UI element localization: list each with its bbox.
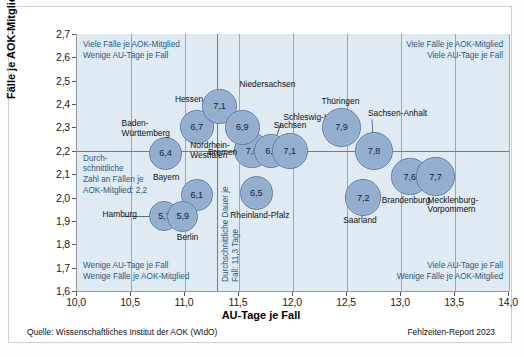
bubble-sachsen-anhalt[interactable]: 7,8 bbox=[355, 132, 394, 171]
x-tick-label: 10,0 bbox=[51, 296, 101, 308]
plot-area: Viele Fälle je AOK-MitgliedWenige AU-Tag… bbox=[76, 34, 509, 292]
y-tick-mark bbox=[72, 291, 76, 292]
x-tick-label: 10,5 bbox=[105, 296, 155, 308]
state-label-saarland: Saarland bbox=[343, 216, 377, 226]
bubble-value-label: 6,5 bbox=[250, 188, 263, 198]
y-tick-mark bbox=[72, 104, 76, 105]
state-label-baden-w-rttemberg: Baden- Württemberg bbox=[122, 119, 170, 138]
state-label-berlin: Berlin bbox=[177, 233, 198, 243]
chart-frame: Fälle je AOK-Mitglied Viele Fälle je AOK… bbox=[8, 6, 512, 343]
bubble-mecklenburg-vorpommern[interactable]: 7,7 bbox=[416, 157, 454, 195]
y-tick-mark bbox=[72, 151, 76, 152]
bubble-value-label: 6,9 bbox=[236, 122, 249, 132]
y-tick-label: 1,8 bbox=[36, 238, 70, 250]
x-tick-label: 11,5 bbox=[213, 296, 263, 308]
y-tick-label: 2,3 bbox=[36, 121, 70, 133]
y-tick-mark bbox=[72, 244, 76, 245]
x-gridline bbox=[347, 34, 348, 291]
y-tick-mark bbox=[72, 268, 76, 269]
y-tick-mark bbox=[72, 221, 76, 222]
y-tick-label: 2,5 bbox=[36, 75, 70, 87]
y-tick-label: 1,7 bbox=[36, 262, 70, 274]
state-label-th-ringen: Thüringen bbox=[322, 97, 360, 107]
y-tick-mark bbox=[72, 174, 76, 175]
bubble-value-label: 7,7 bbox=[429, 172, 442, 182]
y-tick-label: 2,6 bbox=[36, 51, 70, 63]
bubble-saarland[interactable]: 7,2 bbox=[345, 179, 381, 215]
x-tick-label: 13,5 bbox=[429, 296, 479, 308]
source-note: Quelle: Wissenschaftliches Institut der … bbox=[27, 327, 217, 337]
state-label-sachsen-anhalt: Sachsen-Anhalt bbox=[368, 109, 427, 119]
avg-cases-label: Durch-schnittlicheZahl an Fällen jeAOK-M… bbox=[83, 154, 147, 197]
y-tick-label: 1,9 bbox=[36, 215, 70, 227]
x-tick-label: 14,0 bbox=[483, 296, 524, 308]
y-tick-label: 2,2 bbox=[36, 145, 70, 157]
bubble-value-label: 7,9 bbox=[335, 122, 348, 132]
bubble-value-label: 7,1 bbox=[283, 146, 296, 156]
state-label-mecklenburg-vorpommern: Mecklenburg- Vorpommern bbox=[428, 196, 479, 215]
y-axis-title: Fälle je AOK-Mitglied bbox=[5, 0, 17, 99]
y-tick-label: 2,1 bbox=[36, 168, 70, 180]
quadrant-note-bottom-left: Wenige AU-Tage je FallWenige Fälle je AO… bbox=[83, 260, 189, 282]
state-label-bayern: Bayern bbox=[153, 173, 180, 183]
bubble-berlin[interactable]: 5,9 bbox=[167, 201, 198, 232]
x-tick-label: 12,5 bbox=[321, 296, 371, 308]
y-tick-label: 2,7 bbox=[36, 28, 70, 40]
quadrant-note-top-right: Viele Fälle je AOK-MitgliedViele AU-Tage… bbox=[406, 39, 503, 61]
bubble-sachsen[interactable]: 7,1 bbox=[272, 133, 308, 169]
bubble-value-label: 6,7 bbox=[191, 122, 204, 132]
x-gridline bbox=[455, 34, 456, 291]
y-tick-label: 2,4 bbox=[36, 98, 70, 110]
state-label-sachsen: Sachsen bbox=[274, 121, 307, 131]
bubble-th-ringen[interactable]: 7,9 bbox=[322, 108, 361, 147]
x-gridline bbox=[185, 34, 186, 291]
state-label-rheinland-pfalz: Rheinland-Pfalz bbox=[230, 211, 289, 221]
quadrant-note-top-left: Viele Fälle je AOK-MitgliedWenige AU-Tag… bbox=[83, 39, 180, 61]
bubble-value-label: 7,2 bbox=[357, 193, 370, 203]
x-tick-label: 11,0 bbox=[159, 296, 209, 308]
bubble-value-label: 6,4 bbox=[159, 148, 172, 158]
state-label-hamburg: Hamburg bbox=[102, 210, 136, 220]
avg-duration-reference-line bbox=[217, 34, 218, 291]
state-label-hessen: Hessen bbox=[175, 95, 203, 105]
state-label-niedersachsen: Niedersachsen bbox=[240, 80, 296, 90]
y-tick-label: 2,0 bbox=[36, 192, 70, 204]
bubble-value-label: 7,6 bbox=[403, 172, 416, 182]
quadrant-note-bottom-right: Viele AU-Tage je FallWenige Fälle je AOK… bbox=[397, 260, 503, 282]
avg-duration-label: Durchschnittliche Dauer jeFall: 11,3 Tag… bbox=[221, 186, 242, 282]
chart-figure: Fälle je AOK-Mitglied Viele Fälle je AOK… bbox=[0, 0, 524, 357]
bubble-value-label: 6,1 bbox=[191, 190, 204, 200]
bubble-value-label: 7,8 bbox=[368, 146, 381, 156]
bubble-baden-w-rttemberg[interactable]: 6,4 bbox=[149, 137, 182, 170]
x-gridline bbox=[509, 34, 510, 291]
x-tick-label: 12,0 bbox=[267, 296, 317, 308]
y-tick-mark bbox=[72, 81, 76, 82]
y-tick-mark bbox=[72, 34, 76, 35]
bubble-value-label: 7,1 bbox=[213, 101, 226, 111]
report-note: Fehlzeiten-Report 2023 bbox=[407, 327, 495, 337]
bubble-value-label: 5,9 bbox=[177, 211, 190, 221]
x-axis-title: AU-Tage je Fall bbox=[9, 309, 513, 321]
y-tick-mark bbox=[72, 198, 76, 199]
bubble-rheinland-pfalz[interactable]: 6,5 bbox=[240, 176, 273, 209]
y-tick-label: 1,6 bbox=[36, 285, 70, 297]
state-label-brandenburg: Brandenburg bbox=[382, 196, 430, 206]
bubble-nordrhein-westfalen[interactable]: 6,9 bbox=[225, 110, 260, 145]
y-tick-mark bbox=[72, 127, 76, 128]
x-tick-label: 13,0 bbox=[375, 296, 425, 308]
y-tick-mark bbox=[72, 57, 76, 58]
state-label-nordrhein-westfalen: Nordrhein- Westfalen bbox=[190, 141, 230, 160]
